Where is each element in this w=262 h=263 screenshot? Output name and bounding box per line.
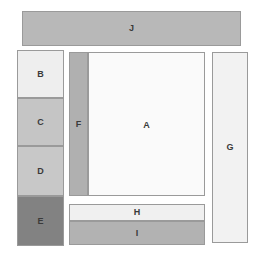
layout-diagram-canvas: J B C D E F A G H I xyxy=(0,0,262,263)
region-d-label: D xyxy=(37,167,44,176)
region-h[interactable]: H xyxy=(69,204,205,221)
region-f-label: F xyxy=(76,120,82,129)
region-e-label: E xyxy=(37,217,43,226)
region-f[interactable]: F xyxy=(69,52,88,196)
region-i[interactable]: I xyxy=(69,221,205,245)
region-j[interactable]: J xyxy=(22,11,241,46)
region-g-label: G xyxy=(226,143,233,152)
region-b[interactable]: B xyxy=(17,50,64,98)
region-i-label: I xyxy=(136,229,139,238)
region-j-label: J xyxy=(129,24,134,33)
region-c-label: C xyxy=(37,118,44,127)
region-b-label: B xyxy=(37,70,44,79)
region-c[interactable]: C xyxy=(17,98,64,146)
region-d[interactable]: D xyxy=(17,146,64,196)
region-h-label: H xyxy=(134,208,141,217)
region-a[interactable]: A xyxy=(88,52,205,196)
region-g[interactable]: G xyxy=(212,52,248,243)
region-e[interactable]: E xyxy=(17,196,64,246)
region-a-label: A xyxy=(143,121,150,130)
